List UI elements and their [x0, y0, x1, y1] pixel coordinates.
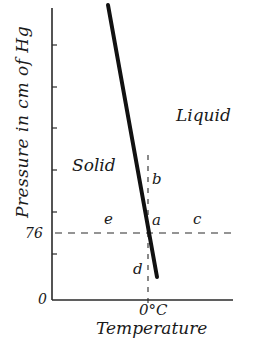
x-tick-label-0c: 0°C [139, 303, 168, 318]
phase-diagram [0, 0, 267, 340]
point-label-c: c [193, 212, 201, 227]
region-label-solid: Solid [72, 157, 116, 174]
y-tick-label-76: 76 [25, 226, 43, 240]
point-label-b: b [152, 172, 162, 187]
y-axis-label: Pressure in cm of Hg [12, 26, 32, 218]
point-label-d: d [133, 262, 143, 277]
melting-curve-line [108, 5, 157, 277]
y-tick-label-0: 0 [38, 292, 47, 306]
point-label-e: e [104, 212, 113, 227]
point-label-a: a [152, 213, 161, 228]
region-label-liquid: Liquid [176, 107, 231, 124]
x-axis-label: Temperature [96, 320, 207, 337]
